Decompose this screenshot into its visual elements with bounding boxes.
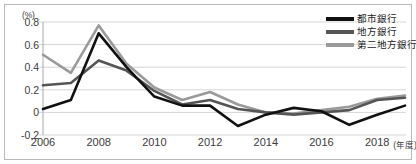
legend-swatch xyxy=(326,30,354,34)
x-tick-label: 2008 xyxy=(86,136,110,148)
legend-item: 第二地方銀行 xyxy=(326,39,416,50)
x-tick-label: 2012 xyxy=(198,136,222,148)
legend-item: 都市銀行 xyxy=(326,13,416,24)
y-tick-label: 0.6 xyxy=(24,39,39,51)
chart-container: (%) 0.80.60.40.20-0.2 200620082010201220… xyxy=(0,0,416,164)
legend-swatch xyxy=(326,43,354,47)
legend-label: 第二地方銀行 xyxy=(357,39,416,50)
x-tick-label: 2018 xyxy=(365,136,389,148)
x-axis-labels: 2006200820102012201420162018(年度) xyxy=(0,136,416,156)
x-axis-unit-label: (年度) xyxy=(393,138,416,150)
x-tick-label: 2006 xyxy=(31,136,55,148)
legend-label: 都市銀行 xyxy=(357,13,397,24)
legend-item: 地方銀行 xyxy=(326,26,416,37)
legend-swatch xyxy=(326,17,354,21)
y-tick-label: 0.8 xyxy=(24,16,39,28)
y-tick-label: 0 xyxy=(33,106,39,118)
legend-label: 地方銀行 xyxy=(357,26,397,37)
y-tick-label: 0.2 xyxy=(24,84,39,96)
x-tick-label: 2016 xyxy=(309,136,333,148)
y-tick-label: 0.4 xyxy=(24,61,39,73)
chart-legend: 都市銀行地方銀行第二地方銀行 xyxy=(326,13,416,50)
x-tick-label: 2010 xyxy=(142,136,166,148)
x-tick-label: 2014 xyxy=(254,136,278,148)
